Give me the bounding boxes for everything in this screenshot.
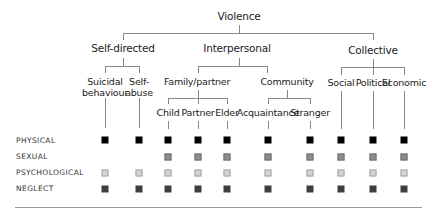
psychological-marker	[307, 170, 314, 177]
subtype-stranger: Stranger	[290, 107, 330, 118]
connector	[268, 98, 311, 99]
connector	[239, 25, 240, 33]
sexual-marker	[195, 154, 202, 161]
connector	[404, 67, 405, 75]
connector	[341, 91, 342, 129]
sexual-marker	[265, 154, 272, 161]
connector	[227, 98, 228, 104]
connector	[404, 91, 405, 129]
row-label-neglect: NEGLECT	[16, 184, 54, 193]
psychological-marker	[401, 170, 408, 177]
neglect-marker	[265, 186, 272, 193]
physical-marker	[401, 137, 408, 144]
neglect-marker	[136, 186, 143, 193]
psychological-marker	[338, 170, 345, 177]
connector	[268, 121, 269, 129]
sexual-marker	[338, 154, 345, 161]
connector	[198, 90, 199, 98]
neglect-marker	[307, 186, 314, 193]
connector	[373, 67, 374, 75]
connector	[168, 121, 169, 129]
row-label-psychological: PSYCHOLOGICAL	[16, 168, 84, 177]
category-collective: Collective	[348, 45, 398, 56]
group-community: Community	[260, 76, 313, 87]
physical-marker	[195, 137, 202, 144]
neglect-marker	[338, 186, 345, 193]
category-interpersonal: Interpersonal	[203, 43, 270, 54]
psychological-marker	[195, 170, 202, 177]
physical-marker	[165, 137, 172, 144]
connector	[139, 98, 140, 128]
connector	[268, 98, 269, 104]
neglect-marker	[370, 186, 377, 193]
physical-marker	[102, 137, 109, 144]
row-label-physical: PHYSICAL	[16, 136, 55, 145]
row-label-sexual: SEXUAL	[16, 152, 48, 161]
physical-marker	[370, 137, 377, 144]
neglect-marker	[224, 186, 231, 193]
physical-marker	[224, 137, 231, 144]
connector	[310, 121, 311, 129]
sexual-marker	[370, 154, 377, 161]
sexual-marker	[165, 154, 172, 161]
category-self-directed: Self-directed	[91, 43, 155, 54]
subtype-self-abuse: Self- abuse	[125, 76, 153, 98]
subtype-economic: Economic	[382, 77, 426, 88]
connector	[198, 66, 199, 73]
neglect-marker	[195, 186, 202, 193]
neglect-marker	[401, 186, 408, 193]
connector	[341, 67, 342, 75]
connector	[105, 66, 106, 73]
connector	[287, 90, 288, 98]
connector	[227, 121, 228, 129]
neglect-marker	[165, 186, 172, 193]
subtype-social: Social	[328, 77, 355, 88]
connector	[198, 98, 199, 104]
connector	[373, 59, 374, 67]
physical-marker	[307, 137, 314, 144]
connector	[105, 66, 140, 67]
connector	[310, 98, 311, 104]
physical-marker	[338, 137, 345, 144]
psychological-marker	[265, 170, 272, 177]
psychological-marker	[102, 170, 109, 177]
subtype-elder: Elder	[215, 107, 238, 118]
subtype-child: Child	[157, 107, 180, 118]
subtype-partner: Partner	[181, 107, 214, 118]
sexual-marker	[224, 154, 231, 161]
sexual-marker	[401, 154, 408, 161]
connector	[123, 33, 124, 40]
connector	[239, 58, 240, 66]
connector	[123, 58, 124, 66]
bottom-rule	[15, 207, 422, 208]
root-label: Violence	[218, 11, 261, 22]
connector	[139, 66, 140, 73]
connector	[198, 121, 199, 129]
psychological-marker	[165, 170, 172, 177]
physical-marker	[265, 137, 272, 144]
connector	[373, 91, 374, 129]
connector	[105, 98, 106, 128]
psychological-marker	[370, 170, 377, 177]
physical-marker	[136, 137, 143, 144]
group-family-partner: Family/partner	[164, 76, 230, 87]
subtype-suicidal-behaviour: Suicidal behaviour	[82, 76, 128, 98]
neglect-marker	[102, 186, 109, 193]
connector	[198, 66, 268, 67]
connector	[168, 98, 169, 104]
sexual-marker	[307, 154, 314, 161]
psychological-marker	[136, 170, 143, 177]
psychological-marker	[224, 170, 231, 177]
connector	[373, 33, 374, 40]
connector	[267, 66, 268, 73]
connector	[123, 33, 374, 34]
